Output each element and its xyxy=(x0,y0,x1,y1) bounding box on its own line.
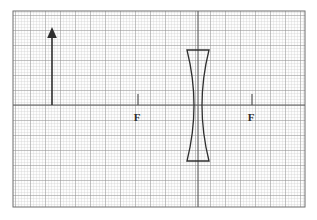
optics-diagram-svg: F F xyxy=(0,0,317,220)
focal-point-right-label: F xyxy=(248,111,255,123)
graph-paper-grid xyxy=(13,11,305,207)
optics-diagram-canvas: F F xyxy=(0,0,317,220)
focal-point-left-label: F xyxy=(134,111,141,123)
